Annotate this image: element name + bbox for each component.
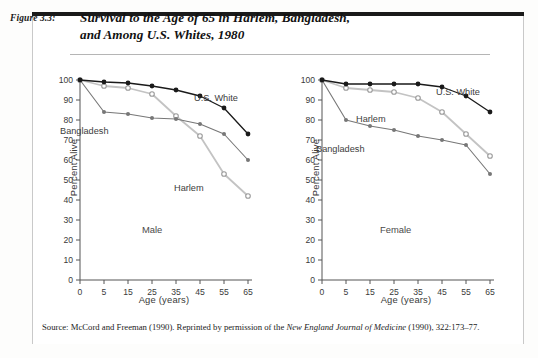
svg-text:90: 90: [305, 95, 315, 105]
figure-number: Figure 3.3:: [10, 13, 55, 23]
svg-text:10: 10: [63, 255, 73, 265]
svg-text:0: 0: [310, 275, 315, 285]
svg-text:20: 20: [305, 235, 315, 245]
figure-title-line1: Survival to the Age of 65 in Harlem, Ban…: [80, 10, 350, 25]
source-journal: New England Journal of Medicine: [286, 322, 406, 332]
y-axis-title-female: Percent Alive: [310, 123, 321, 213]
figure-title-line2: and Among U.S. Whites, 1980: [80, 27, 244, 42]
panel-label-female: Female: [380, 224, 411, 235]
svg-text:30: 30: [63, 215, 73, 225]
svg-text:30: 30: [305, 215, 315, 225]
panel-label-male: Male: [142, 224, 162, 235]
figure-root: Figure 3.3: Survival to the Age of 65 in…: [0, 0, 538, 358]
series-label-us-white-female: U.S. White: [436, 87, 480, 97]
source-suffix: (1990), 322:173–77.: [406, 322, 479, 332]
svg-text:20: 20: [63, 235, 73, 245]
chart-panel-male: 010203040506070809010005152535455565 Per…: [34, 66, 266, 312]
x-axis-title-male: Age (years): [74, 294, 254, 305]
svg-text:90: 90: [63, 95, 73, 105]
page-title: Survival to the Age of 65 in Harlem, Ban…: [80, 10, 470, 43]
svg-text:100: 100: [59, 75, 74, 85]
series-label-harlem-male: Harlem: [174, 183, 204, 193]
y-axis-title-male: Percent Alive: [68, 123, 79, 213]
title-divider: [70, 54, 490, 55]
series-label-bangladesh-female: Bangladesh: [316, 144, 365, 154]
svg-text:10: 10: [305, 255, 315, 265]
series-label-harlem-female: Harlem: [356, 114, 386, 124]
svg-text:100: 100: [301, 75, 316, 85]
source-note: Source: McCord and Freeman (1990). Repri…: [42, 322, 512, 334]
x-axis-title-female: Age (years): [316, 294, 496, 305]
source-prefix: Source: McCord and Freeman (1990). Repri…: [42, 322, 286, 332]
chart-panel-female: 010203040506070809010005152535455565 Per…: [276, 66, 508, 312]
series-label-us-white-male: U.S. White: [194, 93, 238, 103]
svg-text:0: 0: [68, 275, 73, 285]
series-label-bangladesh-male: Bangladesh: [60, 126, 109, 136]
